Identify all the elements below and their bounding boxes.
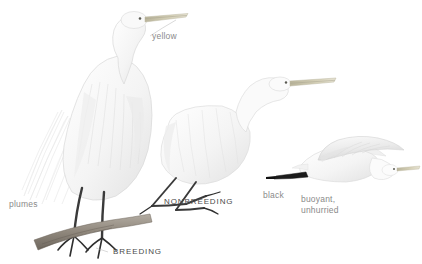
- annotation-black: black: [263, 190, 284, 201]
- flying-head: [382, 165, 398, 176]
- flying-eye: [393, 168, 395, 170]
- flying-legs: [266, 172, 308, 179]
- egret-eye: [139, 17, 142, 20]
- flying-bill: [397, 166, 420, 171]
- plumage-label-breeding: BREEDING: [113, 247, 162, 256]
- annotation-plumes: plumes: [9, 199, 38, 210]
- annotation-yellow: yellow: [152, 31, 177, 42]
- illustration-canvas: [0, 0, 422, 264]
- egret-bill: [145, 14, 188, 23]
- egret-illustration-plate: yellow plumes black buoyant, unhurried B…: [0, 0, 422, 264]
- nonbreeding-head: [269, 77, 291, 91]
- plumage-label-nonbreeding: NONBREEDING: [164, 197, 233, 206]
- nonbreeding-eye: [285, 81, 287, 83]
- annotation-flight-note: buoyant, unhurried: [301, 194, 339, 216]
- flying-egret: [266, 136, 420, 182]
- egret-head: [121, 12, 147, 29]
- standing-breeding-egret: [22, 12, 188, 259]
